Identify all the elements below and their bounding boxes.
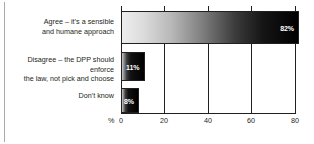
bar-disagree[interactable]: 11% (121, 52, 145, 81)
category-label-agree-line2: and humane approach (6, 27, 114, 37)
category-label-disagree-line2: the law, not pick and choose (6, 74, 114, 84)
category-label-dont-know: Don’t know (6, 91, 114, 101)
category-label-agree-line1: Agree – it’s a sensible (6, 17, 114, 27)
bar-agree-value: 82% (280, 24, 294, 31)
axis-tick-label-40: 40 (204, 116, 212, 125)
bar-agree[interactable]: 82% (121, 11, 299, 44)
value-axis-labels: % 0 20 40 60 80 (0, 116, 314, 130)
bar-disagree-value: 11% (126, 63, 139, 70)
axis-tick-label-60: 60 (247, 116, 255, 125)
category-label-agree: Agree – it’s a sensible and humane appro… (6, 17, 114, 36)
axis-unit-label: % (108, 116, 114, 125)
plot-area: 82% 11% 8% (121, 11, 295, 113)
category-label-dont-know-line1: Don’t know (6, 91, 114, 101)
axis-tick-label-0: 0 (119, 116, 123, 125)
axis-tick-label-20: 20 (160, 116, 168, 125)
bar-dont-know[interactable]: 8% (121, 88, 139, 113)
bar-agree-fill (122, 12, 298, 43)
category-label-disagree: Disagree – the DPP should enforce the la… (6, 55, 114, 84)
axis-tick-label-80: 80 (291, 116, 299, 125)
category-label-disagree-line1: Disagree – the DPP should enforce (6, 55, 114, 74)
chart-figure: Agree – it’s a sensible and humane appro… (0, 0, 314, 144)
value-axis-baseline (121, 113, 296, 114)
bar-dont-know-value: 8% (124, 97, 134, 104)
